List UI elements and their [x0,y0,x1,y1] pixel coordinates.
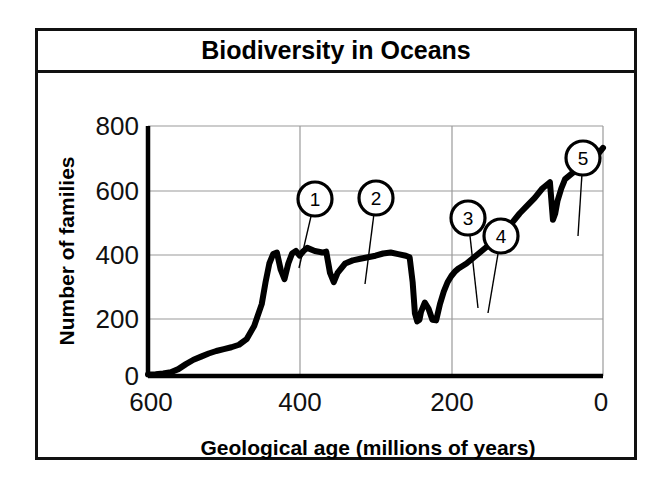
marker-label-5: 5 [578,148,589,169]
annotation-marker-5: 5 [566,141,600,236]
x-tick-600: 600 [129,387,172,417]
x-tick-200: 200 [430,387,473,417]
leader-line-3 [470,235,478,308]
marker-label-1: 1 [310,189,321,210]
marker-label-3: 3 [463,208,474,229]
x-tick-0: 0 [594,387,608,417]
y-axis-title: Number of families [55,156,78,345]
figure-panel: Biodiversity in Oceans 800 600 [35,28,637,460]
leader-line-4 [488,253,498,313]
leader-line-1 [299,216,311,268]
annotation-layer: 12345 [298,141,600,313]
annotation-marker-4: 4 [484,219,518,313]
y-tick-600: 600 [96,176,139,206]
plot-area: 800 600 400 200 0 600 400 200 0 Number o… [38,73,634,457]
x-tick-400: 400 [278,387,321,417]
marker-label-2: 2 [371,188,382,209]
page-title: Biodiversity in Oceans [201,36,471,65]
y-tick-200: 200 [96,304,139,334]
annotation-marker-2: 2 [359,181,393,284]
leader-line-2 [365,215,374,284]
biodiversity-line-chart: 800 600 400 200 0 600 400 200 0 Number o… [38,73,634,460]
leader-line-5 [578,175,582,236]
y-tick-400: 400 [96,240,139,270]
x-axis-title: Geological age (millions of years) [201,436,536,459]
marker-label-4: 4 [496,226,507,247]
title-band: Biodiversity in Oceans [38,31,634,73]
grid-lines [148,126,603,376]
y-tick-800: 800 [96,111,139,141]
y-tick-labels: 800 600 400 200 0 [96,111,139,391]
axis-frame [148,126,603,376]
x-tick-labels: 600 400 200 0 [129,387,608,417]
